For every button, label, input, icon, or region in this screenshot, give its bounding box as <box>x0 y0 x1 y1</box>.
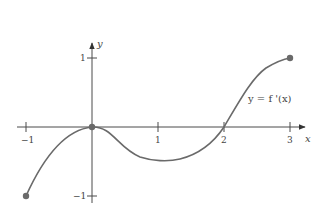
x-tick-label: 3 <box>287 135 293 145</box>
y-axis-label: y <box>96 38 103 49</box>
point-start <box>23 193 29 199</box>
y-tick-label: −1 <box>73 191 86 201</box>
x-tick-label: 2 <box>221 135 227 145</box>
x-tick-label: −1 <box>21 135 34 145</box>
chart: −1 1 2 3 1 −1 x y y = f '(x) <box>0 0 325 210</box>
point-end <box>287 55 293 61</box>
function-label: y = f '(x) <box>247 93 292 104</box>
x-axis-label: x <box>305 133 311 144</box>
x-tick-label: 1 <box>155 135 161 145</box>
point-origin <box>89 124 95 130</box>
y-tick-label: 1 <box>80 53 86 63</box>
